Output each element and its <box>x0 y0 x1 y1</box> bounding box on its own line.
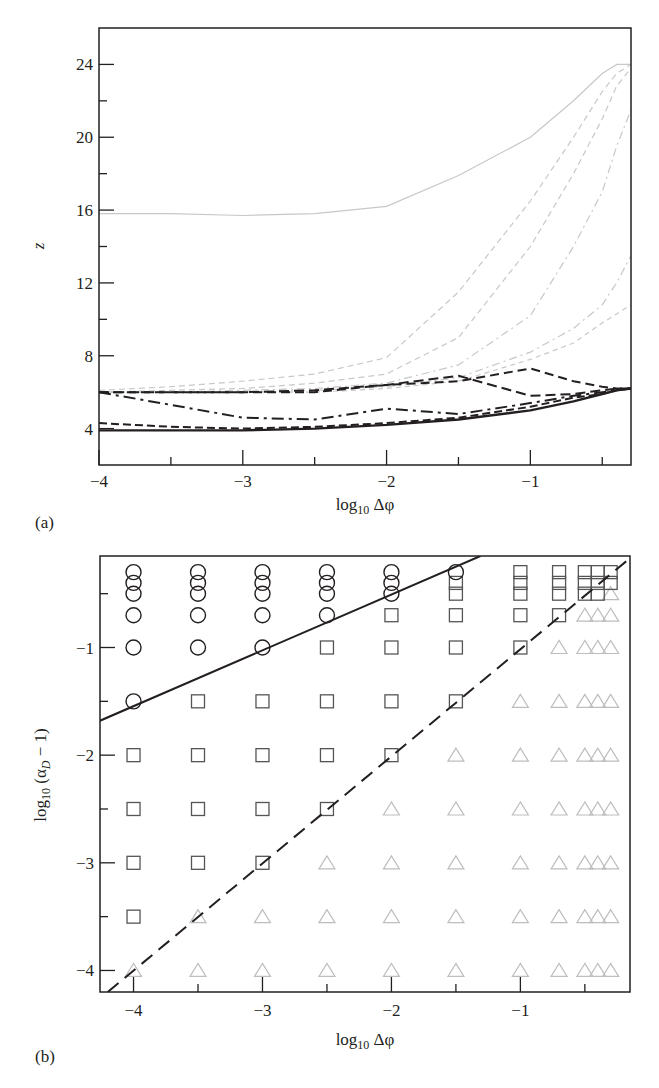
line-series-1 <box>99 64 631 215</box>
triangle-marker <box>551 694 567 707</box>
line-series-6 <box>99 305 631 392</box>
a-ytick-label: 4 <box>85 420 94 439</box>
circle-marker <box>126 608 141 623</box>
square-marker <box>385 609 398 622</box>
square-marker <box>256 802 269 815</box>
triangle-marker <box>319 856 335 869</box>
square-marker <box>320 749 333 762</box>
b-ytick-label: −3 <box>76 854 94 873</box>
square-marker <box>385 641 398 654</box>
chart-a-ylabel: z <box>29 242 48 250</box>
square-marker <box>320 695 333 708</box>
triangle-marker <box>551 910 567 923</box>
circle-marker <box>255 608 270 623</box>
chart-b-xlabel: log10 Δφ <box>336 1030 395 1052</box>
square-marker <box>256 749 269 762</box>
triangle-marker <box>512 963 528 976</box>
triangle-marker <box>448 802 464 815</box>
figure: 4812162024−4−3−2−1 log10 Δφ z (a) log10 … <box>0 0 659 1088</box>
square-marker <box>192 802 205 815</box>
chart-a: 4812162024−4−3−2−1 log10 Δφ z (a) <box>29 28 631 532</box>
b-ytick-label: −4 <box>76 961 95 980</box>
square-marker <box>127 856 140 869</box>
triangle-marker <box>448 910 464 923</box>
triangle-marker <box>551 748 567 761</box>
b-ytick-label: −1 <box>76 639 94 658</box>
circle-marker <box>191 640 206 655</box>
triangle-marker <box>190 963 206 976</box>
a-ytick-label: 8 <box>85 347 94 366</box>
a-ytick-label: 16 <box>76 201 93 220</box>
line-series-5 <box>99 256 631 393</box>
circle-marker <box>255 586 270 601</box>
square-marker <box>192 749 205 762</box>
square-marker <box>127 749 140 762</box>
triangle-marker <box>448 748 464 761</box>
square-marker <box>449 641 462 654</box>
chart-a-xlabel: log10 Δφ <box>336 495 395 517</box>
chart-b: log10 Δφ log10 (αD − 1) (b) −1−2−3−4−4−3… <box>31 556 630 1066</box>
triangle-marker <box>603 587 619 600</box>
a-xtick-label: −4 <box>90 472 109 491</box>
chart-a-series <box>99 64 631 430</box>
dashed-boundary-line <box>108 561 626 992</box>
triangle-marker <box>383 910 399 923</box>
a-ytick-label: 24 <box>76 55 94 74</box>
square-marker <box>256 695 269 708</box>
panel-b-label: (b) <box>35 1047 55 1066</box>
line-series-7 <box>99 369 631 393</box>
a-xtick-label: −2 <box>378 472 396 491</box>
chart-b-boundary-lines <box>100 556 626 992</box>
b-xtick-label: −4 <box>124 1001 143 1020</box>
triangle-marker <box>551 802 567 815</box>
triangle-marker <box>551 641 567 654</box>
square-marker <box>127 910 140 923</box>
triangle-marker <box>254 910 270 923</box>
line-series-4 <box>99 110 631 392</box>
line-series-3 <box>99 68 631 392</box>
triangle-marker <box>512 802 528 815</box>
circle-marker <box>126 640 141 655</box>
solid-boundary-line <box>100 556 480 721</box>
square-marker <box>320 641 333 654</box>
square-marker <box>514 609 527 622</box>
b-xtick-label: −1 <box>511 1001 529 1020</box>
a-xtick-label: −3 <box>234 472 252 491</box>
line-series-8 <box>99 376 631 396</box>
b-ytick-label: −2 <box>76 746 94 765</box>
triangle-marker <box>448 856 464 869</box>
b-xtick-label: −3 <box>253 1001 271 1020</box>
chart-b-ylabel: log10 (αD − 1) <box>31 728 53 821</box>
a-ytick-label: 20 <box>76 128 93 147</box>
square-marker <box>127 802 140 815</box>
square-marker <box>320 802 333 815</box>
a-ytick-label: 12 <box>76 274 93 293</box>
circle-marker <box>126 586 141 601</box>
triangle-marker <box>383 802 399 815</box>
circle-marker <box>319 586 334 601</box>
triangle-marker <box>512 910 528 923</box>
a-xtick-label: −1 <box>521 472 539 491</box>
triangle-marker <box>383 856 399 869</box>
square-marker <box>449 609 462 622</box>
triangle-marker <box>512 856 528 869</box>
b-xtick-label: −2 <box>382 1001 400 1020</box>
line-series-2 <box>99 64 631 390</box>
chart-b-frame <box>100 556 630 992</box>
circle-marker <box>191 586 206 601</box>
triangle-marker <box>512 748 528 761</box>
triangle-marker <box>448 963 464 976</box>
triangle-marker <box>254 963 270 976</box>
square-marker <box>385 695 398 708</box>
panel-a-label: (a) <box>35 513 54 532</box>
triangle-marker <box>383 963 399 976</box>
triangle-marker <box>512 694 528 707</box>
triangle-marker <box>551 963 567 976</box>
square-marker <box>192 695 205 708</box>
triangle-marker <box>319 963 335 976</box>
square-marker <box>192 856 205 869</box>
triangle-marker <box>319 910 335 923</box>
triangle-marker <box>551 856 567 869</box>
circle-marker <box>191 608 206 623</box>
